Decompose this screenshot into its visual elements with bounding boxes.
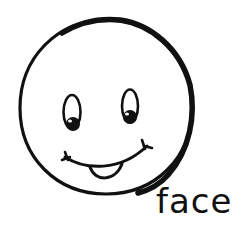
head-outline (20, 20, 192, 194)
smiling-mouth (62, 140, 152, 178)
right-eye (122, 90, 138, 125)
left-eye (64, 95, 81, 131)
caption-label: face (156, 184, 232, 218)
